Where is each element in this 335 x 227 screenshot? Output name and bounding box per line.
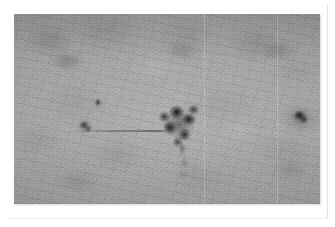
page-edge-right — [327, 4, 328, 218]
film-grain-layer-b — [14, 14, 320, 204]
scan-seam-line-1 — [204, 14, 205, 204]
horizontal-streak — [68, 130, 168, 132]
bottom-left-smudge — [48, 164, 106, 198]
plate-mottling-layer — [14, 14, 320, 204]
image-viewer: Grayscale photographic plate showing sev… — [0, 0, 335, 227]
film-grain-layer-a — [14, 14, 320, 204]
top-right-smudge — [252, 36, 306, 66]
plate-base-tone — [14, 14, 320, 204]
image-alt-text: Grayscale photographic plate showing sev… — [0, 0, 1, 1]
plate-fibre-texture — [14, 14, 320, 204]
left-small-spot — [89, 94, 107, 112]
central-blob-tail — [172, 142, 196, 184]
page-edge-bottom — [6, 218, 328, 219]
photographic-plate — [14, 14, 320, 204]
bottom-right-smudge — [262, 154, 318, 186]
left-large-spot — [72, 114, 98, 138]
top-mid-smudge — [156, 36, 208, 66]
central-blob — [152, 94, 208, 154]
right-blob-halo — [269, 96, 320, 140]
right-blob — [284, 102, 316, 132]
top-left-smudge — [44, 47, 90, 75]
scan-seam-line-2 — [277, 14, 278, 204]
